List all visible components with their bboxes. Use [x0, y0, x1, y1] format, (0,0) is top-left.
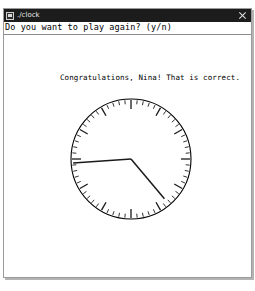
congratulations-message: Congratulations, Nina! That is correct. [60, 73, 240, 83]
minute-tick [142, 101, 143, 105]
minute-tick [119, 101, 120, 105]
minute-tick [183, 141, 187, 142]
minute-tick [148, 211, 149, 215]
hour-hand [131, 159, 164, 199]
minute-tick [113, 103, 114, 107]
minute-tick [163, 204, 165, 207]
minute-tick [73, 147, 77, 148]
terminal-client-area[interactable]: Do you want to play again? (y/n) Congrat… [4, 22, 251, 277]
minute-tick [176, 124, 179, 126]
minute-tick [75, 141, 79, 142]
minute-tick [73, 170, 77, 171]
minute-tick [77, 135, 81, 137]
terminal-window: ./clock Do you want to play again? (y/n)… [3, 8, 252, 278]
minute-tick [183, 176, 187, 177]
prompt-divider [4, 34, 251, 35]
hour-tick [156, 202, 161, 210]
hour-tick [102, 108, 107, 116]
hour-tick [156, 108, 161, 116]
minute-tick [172, 196, 175, 199]
minute-tick [87, 120, 90, 123]
minute-tick [83, 124, 86, 126]
desktop-background: ./clock Do you want to play again? (y/n)… [0, 0, 255, 291]
window-title: ./clock [17, 9, 40, 22]
minute-tick [92, 200, 95, 203]
minute-tick [181, 181, 185, 183]
minute-tick [96, 204, 98, 207]
minute-tick [172, 120, 175, 123]
minute-tick [148, 103, 149, 107]
minute-tick [168, 115, 171, 118]
titlebar-drag-region[interactable] [40, 9, 237, 22]
minute-tick [153, 209, 155, 213]
minute-tick [119, 213, 120, 217]
minute-tick [87, 196, 90, 199]
hour-tick [80, 130, 88, 135]
minute-tick [142, 213, 143, 217]
minute-tick [92, 115, 95, 118]
hour-tick [80, 184, 88, 189]
minute-hand [73, 159, 131, 163]
minute-tick [83, 191, 86, 193]
minute-tick [185, 147, 189, 148]
minute-tick [168, 200, 171, 203]
minute-tick [75, 176, 79, 177]
minute-tick [176, 191, 179, 193]
minute-tick [107, 105, 109, 109]
clock-drawing [66, 94, 196, 224]
minute-tick [163, 111, 165, 114]
hour-tick [174, 130, 182, 135]
hour-tick [102, 202, 107, 210]
window-system-icon[interactable] [6, 12, 14, 20]
hour-tick [174, 184, 182, 189]
minute-tick [153, 105, 155, 109]
analog-clock-face [66, 94, 196, 224]
minute-tick [181, 135, 185, 137]
minute-tick [185, 170, 189, 171]
minute-tick [96, 111, 98, 114]
play-again-prompt: Do you want to play again? (y/n) [5, 22, 172, 33]
minute-tick [113, 211, 114, 215]
window-titlebar[interactable]: ./clock [4, 9, 251, 22]
minute-tick [107, 209, 109, 213]
minute-tick [77, 181, 81, 183]
close-icon[interactable] [237, 10, 248, 21]
